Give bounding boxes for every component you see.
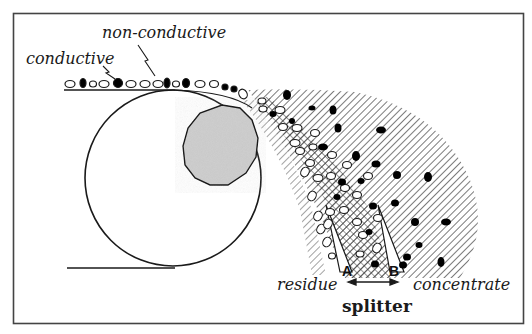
label-point-a: A — [342, 263, 352, 279]
label-conductive: conductive — [26, 49, 114, 68]
separator-diagram: non-conductive conductive residue concen… — [0, 0, 532, 334]
label-residue: residue — [277, 275, 337, 294]
label-point-b: B — [389, 263, 399, 279]
label-concentrate: concentrate — [413, 275, 510, 294]
label-splitter: splitter — [342, 296, 413, 316]
label-non-conductive: non-conductive — [102, 23, 226, 42]
